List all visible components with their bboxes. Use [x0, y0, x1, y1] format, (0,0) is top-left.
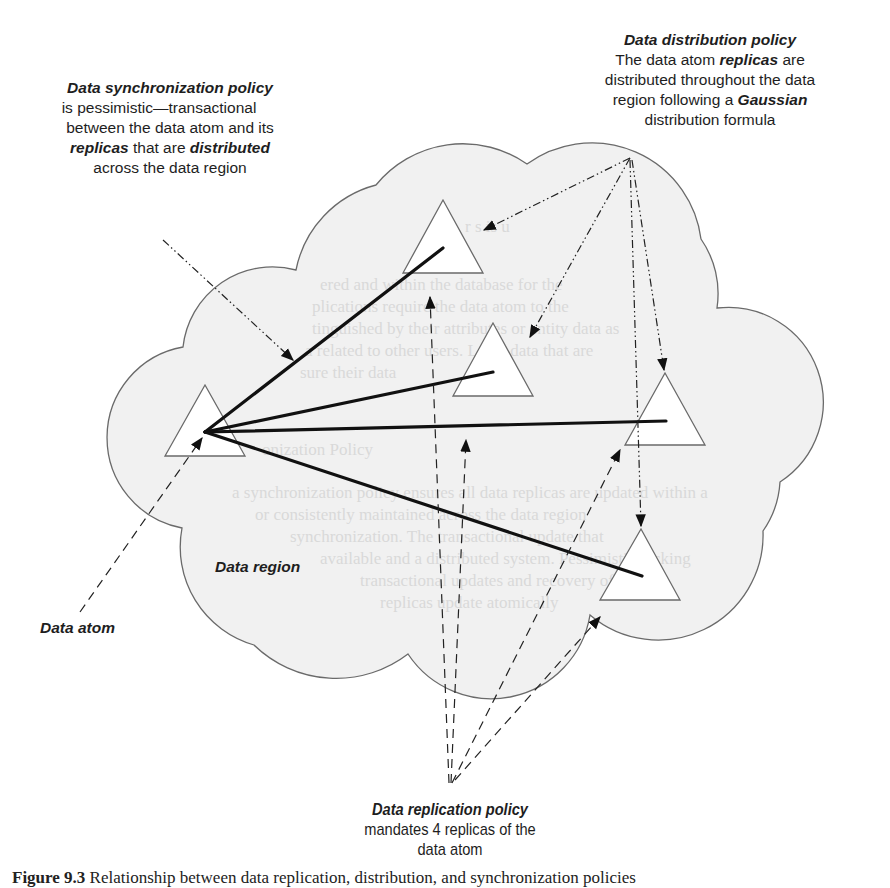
svg-text:a related to other users. Loca: a related to other users. Local data tha…	[305, 341, 593, 360]
svg-text:sure their data: sure their data	[300, 363, 397, 382]
figure-caption-text: Relationship between data replication, d…	[90, 868, 636, 887]
data-region-text: Data region	[215, 558, 300, 575]
replication-policy-line-1: mandates 4 replicas of the	[338, 820, 562, 840]
distribution-policy-line-4: distribution formula	[565, 110, 855, 130]
svg-text:a synchronization policy ensur: a synchronization policy ensures all dat…	[232, 483, 708, 502]
sync-policy-line-1: is pessimistic—transactional	[20, 98, 320, 118]
data-atom-label: Data atom	[40, 618, 160, 638]
distribution-policy-line-1-post: are	[778, 51, 805, 68]
svg-text:or consistently maintained acr: or consistently maintained across the da…	[255, 505, 587, 524]
distribution-policy-line-3: region following a Gaussian	[565, 90, 855, 110]
svg-text:transactional updates and reco: transactional updates and recovery of th…	[360, 571, 639, 590]
replication-policy-line-2: data atom	[338, 840, 562, 860]
sync-policy-line-2: between the data atom and its	[20, 118, 320, 138]
distribution-policy-replicas: replicas	[719, 51, 778, 68]
figure-caption-label: Figure 9.3	[12, 868, 85, 887]
sync-policy-annotation: Data synchronization policy is pessimist…	[20, 78, 320, 178]
sync-policy-mid: that are	[129, 139, 190, 156]
svg-text:ered and within the database f: ered and within the database for the	[320, 275, 563, 294]
distribution-policy-line-3-pre: region following a	[613, 91, 738, 108]
svg-text:plications require the data at: plications require the data atom to the	[312, 297, 569, 316]
distribution-policy-gaussian: Gaussian	[738, 91, 808, 108]
data-atom-text: Data atom	[40, 619, 115, 636]
sync-policy-distributed: distributed	[190, 139, 270, 156]
data-region-label: Data region	[215, 557, 345, 577]
distribution-policy-line-1: The data atom replicas are	[565, 50, 855, 70]
sync-policy-title: Data synchronization policy	[67, 79, 273, 96]
replication-policy-title: Data replication policy	[372, 800, 528, 819]
sync-policy-line-3: replicas that are distributed	[20, 138, 320, 158]
sync-policy-replicas: replicas	[70, 139, 129, 156]
svg-text:replicas update atomically: replicas update atomically	[380, 593, 559, 612]
distribution-policy-annotation: Data distribution policy The data atom r…	[565, 30, 855, 130]
svg-text:synchronization. The transacti: synchronization. The transactional updat…	[290, 527, 604, 546]
svg-text:tinguished by their attributes: tinguished by their attributes or entity…	[312, 319, 619, 338]
distribution-policy-line-1-pre: The data atom	[615, 51, 719, 68]
distribution-policy-title: Data distribution policy	[624, 31, 796, 48]
replication-policy-annotation: Data replication policy mandates 4 repli…	[338, 800, 562, 860]
figure-caption: Figure 9.3 Relationship between data rep…	[12, 868, 890, 888]
sync-policy-line-4: across the data region	[20, 158, 320, 178]
distribution-policy-line-2: distributed throughout the data	[565, 70, 855, 90]
